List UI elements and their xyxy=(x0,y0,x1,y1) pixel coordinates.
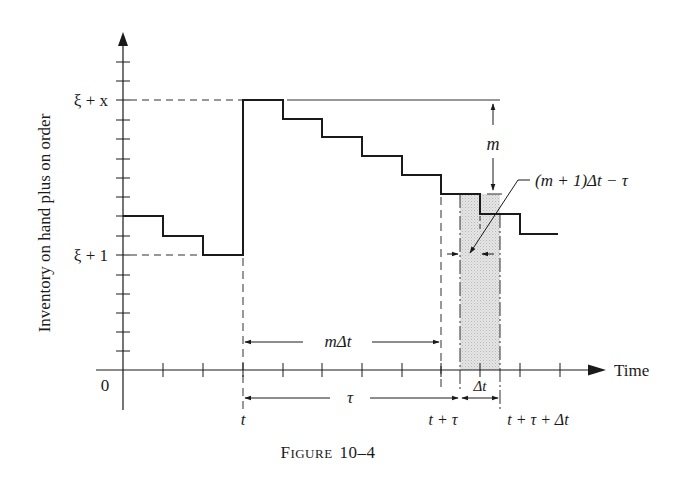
figure-diagram: Inventory on hand plus on order ξ + x ξ … xyxy=(0,0,693,477)
y-tick-label-xi-plus-x: ξ + x xyxy=(74,91,109,110)
x-axis xyxy=(96,365,606,376)
y-axis-label: Inventory on hand plus on order xyxy=(35,113,54,332)
y-axis xyxy=(118,32,128,410)
callout-label: (m + 1)Δt − τ xyxy=(535,171,629,190)
m-label: m xyxy=(487,134,500,154)
x-tick-label-t: t xyxy=(241,410,247,429)
origin-label: 0 xyxy=(101,376,110,395)
y-tick-label-xi-plus-1: ξ + 1 xyxy=(74,246,108,265)
reference-lines xyxy=(130,100,502,255)
x-tick-label-t-plus-tau-plus-dt: t + τ + Δt xyxy=(507,411,569,428)
dt-label: Δt xyxy=(473,378,488,394)
m-dt-label: mΔt xyxy=(325,332,353,351)
x-axis-label: Time xyxy=(614,361,649,380)
figure-caption: FIGURE10–4 xyxy=(280,443,375,462)
x-tick-label-t-plus-tau: t + τ xyxy=(429,411,459,428)
tau-label: τ xyxy=(347,388,354,407)
